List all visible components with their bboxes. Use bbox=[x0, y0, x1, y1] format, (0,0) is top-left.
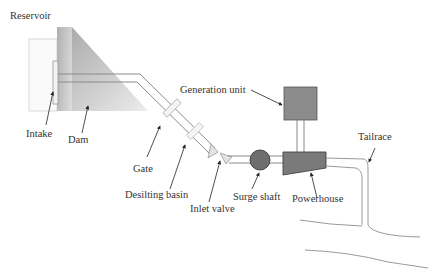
gate-label: Gate bbox=[133, 163, 153, 175]
powerhouse bbox=[283, 152, 326, 175]
surge-shaft-leader bbox=[252, 173, 259, 189]
dam-label: Dam bbox=[68, 134, 88, 146]
gate bbox=[163, 99, 181, 117]
surge-shaft-label: Surge shaft bbox=[233, 191, 280, 203]
surge-shaft bbox=[250, 150, 270, 170]
generation-unit-label: Generation unit bbox=[180, 84, 246, 96]
generation-unit-leader bbox=[251, 90, 282, 105]
tailrace-label: Tailrace bbox=[358, 131, 392, 143]
intake-structure bbox=[53, 61, 58, 104]
intake-label: Intake bbox=[26, 128, 52, 140]
reservoir-label: Reservoir bbox=[10, 10, 51, 22]
gate-leader bbox=[147, 126, 160, 157]
inlet-valve-label: Inlet valve bbox=[190, 203, 235, 215]
inlet-valve-leader bbox=[209, 161, 220, 202]
desilting-basin bbox=[187, 123, 204, 140]
generation-unit bbox=[284, 87, 317, 120]
tailrace bbox=[300, 158, 428, 268]
powerhouse-label: Powerhouse bbox=[292, 193, 343, 205]
generator-shaft bbox=[297, 120, 304, 152]
desilting-basin-leader bbox=[170, 145, 185, 189]
desilting-basin-label: Desilting basin bbox=[125, 189, 188, 201]
tailrace-leader bbox=[369, 148, 375, 162]
dam bbox=[57, 27, 148, 111]
